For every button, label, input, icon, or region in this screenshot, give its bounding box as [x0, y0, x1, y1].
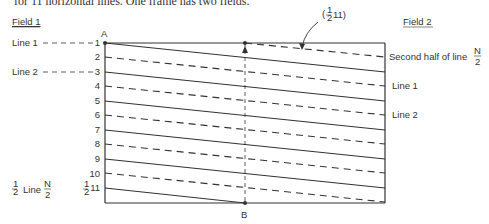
svg-text:4: 4	[95, 80, 100, 91]
svg-text:Line 1: Line 1	[12, 37, 38, 48]
svg-text:2: 2	[475, 56, 480, 67]
svg-text:N: N	[44, 178, 51, 189]
svg-text:2: 2	[95, 51, 100, 62]
svg-text:2: 2	[45, 189, 50, 200]
interlaced-scan-diagram: ( 1 2 11) Field 1 Field 2 A B Line 1 Lin…	[0, 0, 489, 224]
svg-text:7: 7	[95, 124, 100, 135]
svg-text:2: 2	[13, 186, 18, 197]
svg-text:A: A	[101, 28, 108, 39]
svg-text:1: 1	[95, 37, 100, 48]
svg-text:8: 8	[95, 138, 100, 149]
svg-text:9: 9	[95, 153, 100, 164]
svg-text:Line 2: Line 2	[12, 66, 38, 77]
svg-text:(: (	[322, 8, 326, 19]
svg-text:Second half of line: Second half of line	[389, 51, 467, 62]
svg-text:6: 6	[95, 109, 100, 120]
svg-text:2: 2	[327, 12, 332, 23]
svg-text:10: 10	[89, 168, 100, 179]
svg-text:Line 1: Line 1	[392, 80, 418, 91]
svg-text:11): 11)	[333, 9, 346, 20]
svg-text:Line 2: Line 2	[392, 109, 418, 120]
svg-text:N: N	[474, 45, 481, 56]
svg-text:11: 11	[90, 182, 100, 193]
svg-text:Field 2: Field 2	[403, 16, 432, 27]
svg-text:Line: Line	[23, 184, 41, 195]
svg-text:3: 3	[95, 66, 100, 77]
svg-text:5: 5	[95, 95, 100, 106]
svg-text:2: 2	[84, 186, 89, 197]
svg-text:B: B	[241, 209, 247, 220]
svg-text:Field 1: Field 1	[12, 16, 41, 27]
